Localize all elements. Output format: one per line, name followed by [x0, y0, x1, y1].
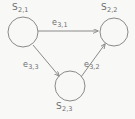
edge-label-e31: e3,1 [52, 19, 68, 27]
node-label-s22: S2,2 [101, 3, 118, 12]
node-label-s21: S2,1 [12, 3, 29, 12]
node-circle-s23[interactable] [55, 71, 85, 101]
diagram-canvas: S2,1 S2,2 S2,3 e3,1 e3,3 e3,2 [0, 0, 135, 119]
node-circle-s22[interactable] [100, 18, 128, 46]
node-label-s23: S2,3 [56, 102, 73, 111]
edge-label-e33: e3,3 [23, 61, 39, 69]
edge-label-e32: e3,2 [84, 61, 100, 69]
node-circle-s21[interactable] [8, 17, 38, 47]
